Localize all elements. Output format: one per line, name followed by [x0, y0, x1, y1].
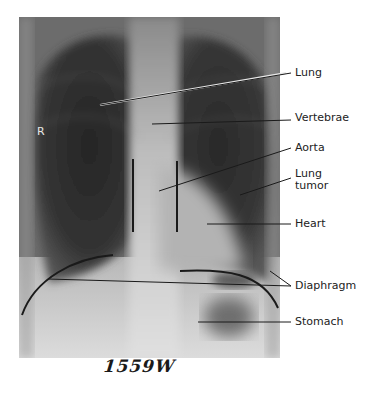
label-lung: Lung	[295, 67, 322, 79]
label-diaphragm: Diaphragm	[295, 280, 356, 292]
annotation-lines	[0, 0, 371, 402]
label-heart: Heart	[295, 218, 326, 230]
label-aorta: Aorta	[295, 142, 325, 154]
label-lung-tumor: Lung tumor	[295, 168, 328, 192]
side-marker-r: R	[37, 125, 45, 138]
handwritten-id: 1559W	[103, 356, 177, 376]
label-vertebrae: Vertebrae	[295, 112, 349, 124]
label-lung-tumor-line2: tumor	[295, 179, 328, 192]
label-stomach: Stomach	[295, 316, 344, 328]
